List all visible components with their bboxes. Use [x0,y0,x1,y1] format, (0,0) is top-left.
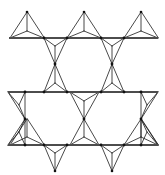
vertex-rail-bottom-e [123,144,126,147]
lattice-figure [0,0,165,175]
vertex-rail-top-a [43,37,46,40]
vertex-rail-top-d [123,37,126,40]
vertex-apex-top-left [26,11,29,14]
vertex-rail-mid-c [66,91,69,94]
vertex-left-bowtie [24,118,27,121]
vertex-rail-mid-a [24,91,27,94]
vertex-rail-mid-d [100,91,103,94]
vertex-center-bowtie [83,118,86,121]
vertex-apex-bottom-right [111,170,114,173]
vertex-rail-top-c [100,37,103,40]
figure-background [0,0,165,175]
vertex-rail-bottom-f [140,144,143,147]
vertex-rail-mid-f [140,91,143,94]
vertex-apex-top-right [140,11,143,14]
vertex-shared-left [54,63,57,66]
lattice-diagram-svg [0,0,165,175]
vertex-right-bowtie [140,118,143,121]
vertex-rail-bottom-a [24,144,27,147]
vertex-rail-mid-e [123,91,126,94]
vertex-rail-mid-b [43,91,46,94]
vertex-rail-bottom-d [100,144,103,147]
vertex-apex-top-center [83,11,86,14]
vertex-rail-bottom-c [66,144,69,147]
vertex-rail-top-b [66,37,69,40]
vertex-shared-right [111,63,114,66]
vertex-apex-bottom-left [54,170,57,173]
vertex-rail-bottom-b [43,144,46,147]
